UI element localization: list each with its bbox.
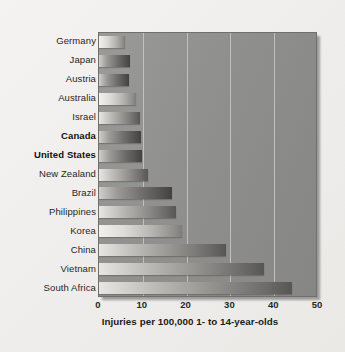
bar-israel bbox=[99, 112, 140, 124]
bar-row bbox=[99, 222, 316, 241]
tick-label-20: 20 bbox=[180, 299, 191, 310]
category-label-south-africa: South Africa bbox=[8, 283, 96, 293]
tick-label-40: 40 bbox=[268, 299, 279, 310]
category-label-korea: Korea bbox=[8, 226, 96, 236]
bar-australia bbox=[99, 93, 136, 105]
category-label-philippines: Philippines bbox=[8, 207, 96, 217]
plot-area bbox=[98, 32, 317, 297]
value-axis-ticks: 01020304050 bbox=[98, 299, 317, 313]
bar-germany bbox=[99, 36, 125, 48]
bar-korea bbox=[99, 225, 182, 237]
tick-label-10: 10 bbox=[137, 299, 148, 310]
bar-row bbox=[99, 184, 316, 203]
bar-canada bbox=[99, 131, 141, 143]
bar-row bbox=[99, 52, 316, 71]
tick-label-30: 30 bbox=[224, 299, 235, 310]
bar-austria bbox=[99, 74, 129, 86]
category-label-new-zealand: New Zealand bbox=[8, 169, 96, 179]
bar-brazil bbox=[99, 187, 172, 199]
bar-row bbox=[99, 71, 316, 90]
category-label-japan: Japan bbox=[8, 55, 96, 65]
category-label-brazil: Brazil bbox=[8, 188, 96, 198]
category-axis-labels: GermanyJapanAustriaAustraliaIsraelCanada… bbox=[8, 32, 96, 298]
bar-row bbox=[99, 33, 316, 52]
category-label-united-states: United States bbox=[8, 150, 96, 160]
bar-row bbox=[99, 166, 316, 185]
bar-row bbox=[99, 109, 316, 128]
bar-japan bbox=[99, 55, 130, 67]
bar-row bbox=[99, 279, 316, 297]
bar-row bbox=[99, 128, 316, 147]
bar-row bbox=[99, 241, 316, 260]
category-label-vietnam: Vietnam bbox=[8, 264, 96, 274]
bar-row bbox=[99, 203, 316, 222]
bar-philippines bbox=[99, 206, 176, 218]
tick-label-0: 0 bbox=[95, 299, 100, 310]
category-label-canada: Canada bbox=[8, 131, 96, 141]
category-label-germany: Germany bbox=[8, 36, 96, 46]
category-label-austria: Austria bbox=[8, 74, 96, 84]
bar-row bbox=[99, 147, 316, 166]
category-label-israel: Israel bbox=[8, 112, 96, 122]
bar-new-zealand bbox=[99, 169, 148, 181]
bar-south-africa bbox=[99, 282, 292, 294]
axis-caption: Injuries per 100,000 1- to 14-year-olds bbox=[60, 316, 320, 327]
bar-row bbox=[99, 90, 316, 109]
bar-united-states bbox=[99, 150, 142, 162]
bar-row bbox=[99, 260, 316, 279]
tick-label-50: 50 bbox=[312, 299, 323, 310]
category-label-australia: Australia bbox=[8, 93, 96, 103]
category-label-china: China bbox=[8, 245, 96, 255]
bar-vietnam bbox=[99, 263, 264, 275]
bar-china bbox=[99, 244, 226, 256]
chart-figure: GermanyJapanAustriaAustraliaIsraelCanada… bbox=[0, 0, 345, 352]
